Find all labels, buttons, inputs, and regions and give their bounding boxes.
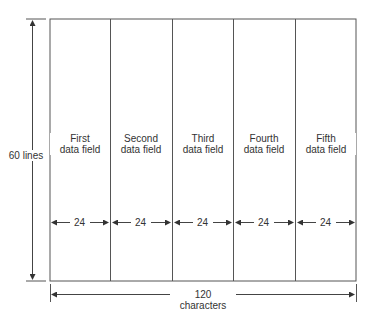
field-label-2: Second data field bbox=[111, 133, 171, 155]
field-label-line1: First bbox=[50, 133, 110, 144]
field-width-4: 24 bbox=[257, 217, 270, 228]
field-width-1: 24 bbox=[73, 217, 86, 228]
field-label-line2: data field bbox=[50, 144, 110, 155]
field-label-line2: data field bbox=[296, 144, 356, 155]
field-label-line1: Second bbox=[111, 133, 171, 144]
field-label-line2: data field bbox=[234, 144, 294, 155]
field-label-5: Fifth data field bbox=[296, 133, 356, 155]
field-width-3: 24 bbox=[196, 217, 209, 228]
field-label-line2: data field bbox=[111, 144, 171, 155]
field-width-2: 24 bbox=[134, 217, 147, 228]
field-width-5: 24 bbox=[319, 217, 332, 228]
field-label-3: Third data field bbox=[173, 133, 233, 155]
field-label-line2: data field bbox=[173, 144, 233, 155]
height-label: 60 lines bbox=[4, 150, 48, 161]
width-label: 120 characters bbox=[170, 289, 236, 311]
field-label-1: First data field bbox=[50, 133, 110, 155]
field-label-line1: Third bbox=[173, 133, 233, 144]
diagram-lines bbox=[0, 0, 377, 315]
field-label-4: Fourth data field bbox=[234, 133, 294, 155]
field-label-line1: Fourth bbox=[234, 133, 294, 144]
field-label-line1: Fifth bbox=[296, 133, 356, 144]
